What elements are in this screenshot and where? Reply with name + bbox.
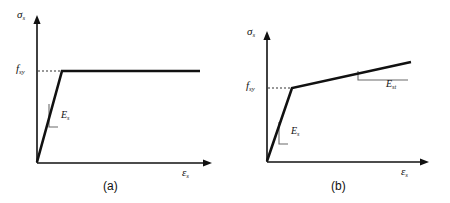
panel-a: σs εs fsy Es (a) [0, 0, 225, 203]
y-axis-label: σs [17, 9, 25, 20]
hardening-modulus-label: Est [386, 79, 396, 89]
stress-strain-curve [267, 62, 411, 161]
elastic-modulus-label: Es [291, 126, 300, 136]
panel-b-plot [225, 0, 450, 203]
x-axis-arrowhead [420, 158, 429, 165]
x-axis-label: εs [401, 166, 408, 177]
panel-b-caption: (b) [331, 180, 346, 192]
panel-b: σs εs fsy Es Est (b) [225, 0, 450, 203]
x-axis-label: εs [182, 167, 189, 178]
elastic-modulus-label: Es [61, 110, 70, 120]
panel-a-plot [0, 0, 225, 203]
panel-a-caption: (a) [103, 180, 118, 192]
y-axis-label: σs [247, 26, 255, 37]
yield-stress-label: fsy [16, 63, 25, 74]
y-axis-arrowhead [33, 15, 40, 24]
y-axis-arrowhead [263, 31, 270, 40]
yield-stress-label: fsy [246, 80, 255, 91]
x-axis-arrowhead [203, 159, 212, 166]
stress-strain-figure: σs εs fsy Es (a) [0, 0, 450, 203]
